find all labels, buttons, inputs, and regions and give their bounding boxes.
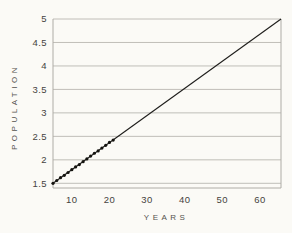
chart-canvas: 1.522.533.544.55102030405060 xyxy=(0,0,292,233)
plot-border xyxy=(53,19,281,188)
data-point xyxy=(97,149,100,152)
population-vs-years-chart: 1.522.533.544.55102030405060 POPULATION … xyxy=(0,0,292,233)
data-point xyxy=(89,154,92,157)
data-point xyxy=(70,168,73,171)
data-point xyxy=(93,152,96,155)
y-tick-label: 2 xyxy=(41,154,47,165)
y-tick-label: 4.5 xyxy=(33,37,47,48)
data-point xyxy=(100,146,103,149)
data-point xyxy=(66,171,69,174)
x-tick-label: 20 xyxy=(104,194,115,205)
x-tick-label: 60 xyxy=(254,194,265,205)
y-tick-label: 1.5 xyxy=(33,178,47,189)
y-tick-label: 5 xyxy=(41,13,47,24)
x-axis-title: YEARS xyxy=(144,213,189,222)
x-tick-label: 30 xyxy=(141,194,152,205)
data-point xyxy=(108,141,111,144)
x-tick-label: 50 xyxy=(217,194,228,205)
y-tick-label: 4 xyxy=(41,60,47,71)
data-point xyxy=(78,163,81,166)
data-point xyxy=(74,165,77,168)
y-tick-label: 3 xyxy=(41,107,47,118)
data-point xyxy=(51,182,54,185)
x-tick-label: 40 xyxy=(179,194,190,205)
data-point xyxy=(63,174,66,177)
y-axis-title: POPULATION xyxy=(10,64,19,150)
data-point xyxy=(55,179,58,182)
data-point xyxy=(112,139,115,142)
y-tick-label: 2.5 xyxy=(33,131,47,142)
data-point xyxy=(81,160,84,163)
x-tick-label: 10 xyxy=(66,194,77,205)
data-point xyxy=(85,157,88,160)
data-point xyxy=(59,176,62,179)
y-tick-label: 3.5 xyxy=(33,84,47,95)
data-point xyxy=(104,144,107,147)
